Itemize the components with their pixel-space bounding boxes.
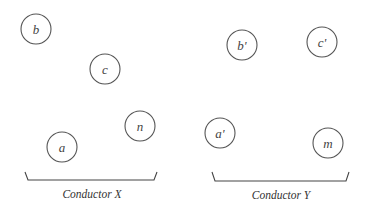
conductor-y-label: Conductor Y <box>252 189 312 201</box>
wire-a-prime: a' <box>205 118 235 148</box>
wire-m: m <box>313 128 343 158</box>
wire-b-prime: b' <box>227 30 257 60</box>
wire-c-prime: c' <box>307 27 337 57</box>
conductor-diagram: b c n a Conductor X b' c' a' <box>0 0 373 212</box>
wire-b: b <box>21 14 51 44</box>
conductor-x-bracket <box>25 172 157 180</box>
wire-c: c <box>90 54 120 84</box>
wire-m-label: m <box>323 136 332 151</box>
wire-c-label: c <box>102 62 108 77</box>
conductor-y-group: b' c' a' m Conductor Y <box>205 27 349 201</box>
wire-b-prime-label: b' <box>237 38 247 53</box>
conductor-y-bracket <box>212 172 349 181</box>
wire-a: a <box>47 132 77 162</box>
wire-n: n <box>125 111 155 141</box>
conductor-x-group: b c n a Conductor X <box>21 14 157 200</box>
wire-c-prime-label: c' <box>318 35 327 50</box>
wire-n-label: n <box>137 119 144 134</box>
conductor-x-label: Conductor X <box>62 188 122 200</box>
wire-a-label: a <box>59 140 66 155</box>
wire-b-label: b <box>33 22 40 37</box>
wire-a-prime-label: a' <box>215 126 225 141</box>
